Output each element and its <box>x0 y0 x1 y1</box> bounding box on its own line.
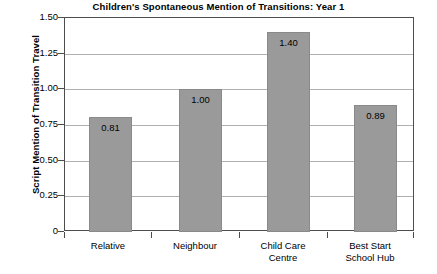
gridline-1.00 <box>65 89 413 90</box>
x-tick-mark-2 <box>239 232 240 238</box>
x-category-label-relative-line-1: Relative <box>64 240 152 252</box>
y-tick-label-0.75: 0.75 <box>18 119 58 129</box>
x-category-label-neighbour-line-1: Neighbour <box>151 240 239 252</box>
bar-neighbour[interactable]: 1.00 <box>179 89 222 232</box>
y-tick-label-1.00: 1.00 <box>18 83 58 93</box>
bar-chart: Children's Spontaneous Mention of Transi… <box>0 0 437 274</box>
x-category-label-child-care-centre-line-1: Child Care <box>239 240 327 252</box>
y-tick-label-0.25: 0.25 <box>18 190 58 200</box>
x-category-label-neighbour: Neighbour <box>151 240 239 252</box>
bar-value-relative: 0.81 <box>90 122 131 133</box>
chart-title: Children's Spontaneous Mention of Transi… <box>0 1 437 13</box>
bar-value-neighbour: 1.00 <box>180 94 221 105</box>
x-category-label-best-start-school-hub-line-2: School Hub <box>326 252 414 264</box>
y-tick-label-0.50: 0.50 <box>18 155 58 165</box>
y-tick-label-1.50: 1.50 <box>18 12 58 22</box>
gridline-1.25 <box>65 54 413 55</box>
x-category-label-child-care-centre: Child Care Centre <box>239 240 327 263</box>
x-category-label-child-care-centre-line-2: Centre <box>239 252 327 264</box>
bar-best-start-school-hub[interactable]: 0.89 <box>354 105 397 232</box>
y-tick-label-1.25: 1.25 <box>18 48 58 58</box>
x-tick-mark-4 <box>413 232 414 238</box>
x-category-label-best-start-school-hub-line-1: Best Start <box>326 240 414 252</box>
bar-value-child-care-centre: 1.40 <box>268 37 309 48</box>
y-tick-label-0: 0 <box>18 226 58 236</box>
x-category-label-best-start-school-hub: Best Start School Hub <box>326 240 414 263</box>
bar-value-best-start-school-hub: 0.89 <box>355 110 396 121</box>
x-tick-mark-1 <box>151 232 152 238</box>
x-tick-mark-3 <box>327 232 328 238</box>
bar-child-care-centre[interactable]: 1.40 <box>267 32 310 232</box>
x-tick-mark-0 <box>64 232 65 238</box>
x-category-label-relative: Relative <box>64 240 152 252</box>
bar-relative[interactable]: 0.81 <box>89 117 132 233</box>
plot-area: 0.81 1.00 1.40 0.89 <box>64 17 414 231</box>
